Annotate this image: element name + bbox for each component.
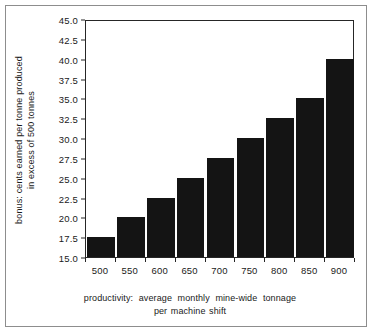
y-tick-label: 22.5 <box>59 193 78 204</box>
y-tick-label: 17.5 <box>59 233 78 244</box>
x-tick-label: 800 <box>271 265 287 276</box>
x-tick-label: 900 <box>331 265 347 276</box>
x-tick-label: 650 <box>181 265 197 276</box>
bar <box>147 198 175 258</box>
x-tick-mark <box>264 258 265 262</box>
x-tick-mark <box>145 258 146 262</box>
x-axis-title-line-1: productivity: average monthly mine-wide … <box>30 292 350 305</box>
x-tick-mark <box>354 258 355 262</box>
plot-area <box>85 20 354 258</box>
bar <box>117 217 145 257</box>
y-tick-label: 25.0 <box>59 173 78 184</box>
figure: bonus: cents earned per tonne produced i… <box>0 0 372 332</box>
bar <box>207 158 235 257</box>
x-tick-mark <box>294 258 295 262</box>
bar <box>87 237 115 257</box>
x-axis-ticks: 500550600650700750800850900 <box>85 258 354 284</box>
y-tick-label: 42.5 <box>59 34 78 45</box>
y-tick-label: 27.5 <box>59 153 78 164</box>
y-axis-ticks: 45.042.540.037.535.032.530.027.525.022.5… <box>0 20 85 258</box>
y-tick-label: 45.0 <box>59 15 78 26</box>
y-tick-label: 20.0 <box>59 213 78 224</box>
x-tick-mark <box>175 258 176 262</box>
x-tick-label: 700 <box>211 265 227 276</box>
bar-series <box>86 21 353 257</box>
y-tick-label: 37.5 <box>59 74 78 85</box>
x-tick-label: 600 <box>151 265 167 276</box>
y-tick-label: 32.5 <box>59 114 78 125</box>
x-tick-mark <box>85 258 86 262</box>
bar <box>326 59 354 257</box>
x-tick-label: 850 <box>301 265 317 276</box>
y-tick-label: 35.0 <box>59 94 78 105</box>
x-tick-label: 750 <box>241 265 257 276</box>
y-tick-label: 15.0 <box>59 253 78 264</box>
y-tick-label: 40.0 <box>59 54 78 65</box>
x-axis-title-line-2: per machine shift <box>30 305 350 318</box>
x-axis-title: productivity: average monthly mine-wide … <box>30 292 350 318</box>
x-tick-mark <box>115 258 116 262</box>
bar <box>237 138 265 257</box>
x-tick-mark <box>234 258 235 262</box>
x-tick-label: 500 <box>92 265 108 276</box>
y-tick-label: 30.0 <box>59 134 78 145</box>
x-tick-label: 550 <box>122 265 138 276</box>
x-tick-mark <box>324 258 325 262</box>
bar <box>296 98 324 257</box>
bar <box>177 178 205 257</box>
bar <box>266 118 294 257</box>
x-tick-mark <box>205 258 206 262</box>
